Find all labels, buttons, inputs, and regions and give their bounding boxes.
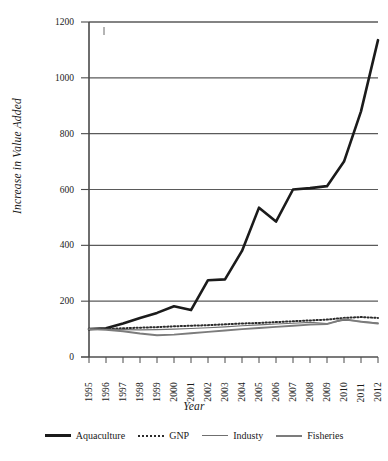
legend-swatch xyxy=(138,432,164,439)
legend-label: Aquaculture xyxy=(76,430,125,441)
legend-swatch xyxy=(45,432,71,439)
legend-item-aquaculture: Aquaculture xyxy=(45,430,125,441)
chart-legend: AquacultureGNPIndustyFisheries xyxy=(0,430,388,441)
legend-item-gnp: GNP xyxy=(138,430,189,441)
legend-label: GNP xyxy=(169,430,189,441)
legend-item-industy: Industy xyxy=(202,430,263,441)
legend-label: Industy xyxy=(233,430,263,441)
series-line-aquaculture xyxy=(89,40,378,329)
legend-swatch xyxy=(202,432,228,439)
legend-label: Fisheries xyxy=(307,430,343,441)
x-axis-ticks: 1995199619971998199920002001200220032004… xyxy=(0,362,388,402)
x-axis-label: Year xyxy=(0,400,388,412)
legend-swatch xyxy=(276,432,302,439)
legend-item-fisheries: Fisheries xyxy=(276,430,343,441)
line-chart: Increase in Value Added 0200400600800100… xyxy=(0,0,388,461)
series-line-gnp xyxy=(89,317,378,329)
